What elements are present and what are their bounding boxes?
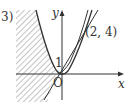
x-axis-label: x bbox=[118, 78, 125, 90]
y-axis-label: y bbox=[52, 7, 59, 19]
x-axis-arrow-icon bbox=[118, 72, 124, 77]
y-axis-arrow-icon bbox=[60, 10, 65, 16]
graph bbox=[0, 0, 126, 103]
origin-label: O bbox=[53, 77, 63, 89]
point-label: (2, 4) bbox=[85, 26, 117, 38]
y-intercept-label: 1 bbox=[55, 57, 63, 69]
problem-label: 3) bbox=[1, 11, 13, 23]
